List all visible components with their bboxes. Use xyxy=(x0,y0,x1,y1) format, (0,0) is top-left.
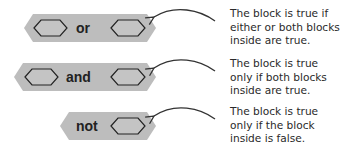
or-description-line-2: either or both blocks xyxy=(230,21,340,35)
not-keyword: not xyxy=(76,118,98,134)
arrow-or xyxy=(154,10,215,21)
and-description-line-1: The block is true xyxy=(230,57,327,71)
and-description-line-3: inside are true. xyxy=(230,84,327,98)
or-description-line-1: The block is true if xyxy=(230,7,340,21)
not-slot xyxy=(111,118,145,134)
not-description-line-2: only if the block xyxy=(230,119,318,133)
arrow-not xyxy=(154,108,215,119)
or-description: The block is true if either or both bloc… xyxy=(230,7,340,48)
not-description-line-1: The block is true xyxy=(230,105,318,119)
and-description: The block is true only if both blocks in… xyxy=(230,57,327,98)
not-description: The block is true only if the block insi… xyxy=(230,105,318,146)
or-right-slot xyxy=(111,20,145,36)
or-left-slot xyxy=(34,20,67,36)
not-block xyxy=(60,112,156,140)
or-keyword: or xyxy=(76,20,90,36)
and-description-line-2: only if both blocks xyxy=(230,71,327,85)
arrow-and xyxy=(154,60,215,71)
or-block xyxy=(24,14,156,42)
and-left-slot xyxy=(25,69,58,85)
and-keyword: and xyxy=(66,69,91,85)
and-right-slot xyxy=(111,69,145,85)
or-description-line-3: inside are true. xyxy=(230,34,340,48)
not-description-line-3: inside is false. xyxy=(230,132,318,146)
